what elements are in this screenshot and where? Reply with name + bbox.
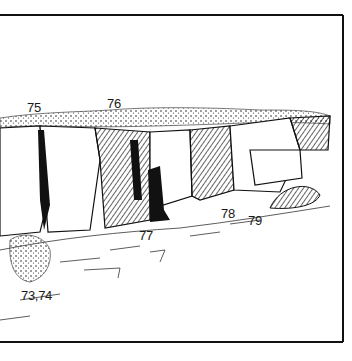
route-label-75: 75 (27, 101, 41, 114)
crag-topo-figure: 75 76 77 78 79 73,74 (0, 0, 352, 361)
crag-drawing (0, 0, 352, 361)
route-label-73-74: 73,74 (21, 289, 52, 302)
route-label-78: 78 (221, 207, 235, 220)
route-label-76: 76 (107, 97, 121, 110)
route-label-77: 77 (139, 229, 153, 242)
bush (10, 235, 51, 282)
route-label-79: 79 (248, 214, 262, 227)
